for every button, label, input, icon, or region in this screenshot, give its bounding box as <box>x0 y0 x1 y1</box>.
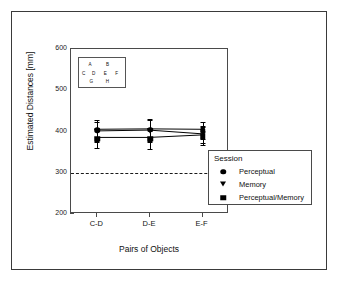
y-tick-label-300: 300 <box>55 168 67 176</box>
x-tick-mark-C-D <box>96 213 97 217</box>
inset-object-B: B <box>106 61 109 66</box>
x-tick-mark-D-E <box>149 213 150 217</box>
error-cap-memory-C-D-upper <box>95 122 100 123</box>
legend-marker-circle-icon <box>220 169 226 175</box>
error-cap-memory-D-E-upper <box>148 120 153 121</box>
figure-canvas: Estimated Distances [mm] 200300400500600… <box>0 0 340 284</box>
y-axis-tick-labels: 200300400500600 <box>44 48 67 213</box>
x-axis-tick-marks <box>70 213 228 218</box>
legend-marker-triangle-down-icon <box>220 182 226 187</box>
y-tick-label-200: 200 <box>55 209 67 217</box>
y-tick-label-500: 500 <box>55 85 67 93</box>
legend-label-memory: Memory <box>239 179 266 190</box>
legend-entry-perceptual[interactable]: Perceptual <box>214 166 310 177</box>
x-axis-title: Pairs of Objects <box>70 244 228 254</box>
x-tick-mark-E-F <box>202 213 203 217</box>
inset-object-D: D <box>92 70 95 75</box>
data-point-perceptual-memory-D-E <box>147 136 153 142</box>
x-tick-label-C-D: C-D <box>90 219 103 228</box>
error-cap-perceptual-memory-E-F-upper <box>200 127 205 128</box>
y-tick-label-400: 400 <box>55 127 67 135</box>
error-cap-perceptual-E-F-upper <box>200 122 205 123</box>
legend-label-perceptual: Perceptual <box>239 166 275 177</box>
data-point-perceptual-memory-C-D <box>95 136 101 142</box>
x-tick-label-E-F: E-F <box>196 219 208 228</box>
error-cap-perceptual-memory-D-E-upper <box>148 128 153 129</box>
inset-object-F: F <box>115 70 118 75</box>
x-axis-tick-labels: C-DD-EE-F <box>70 219 228 231</box>
y-tick-label-600: 600 <box>55 44 67 52</box>
legend-entry-memory[interactable]: Memory <box>214 179 310 190</box>
y-axis-title: Estimated Distances [mm] <box>25 26 35 176</box>
legend-entry-perceptual-memory[interactable]: Perceptual/Memory <box>214 192 310 203</box>
inset-object-A: A <box>88 61 91 66</box>
inset-object-G: G <box>90 78 94 83</box>
legend-label-perceptual-memory: Perceptual/Memory <box>239 192 304 203</box>
inset-object-H: H <box>106 78 109 83</box>
legend-title: Session <box>214 154 242 163</box>
data-point-perceptual-memory-E-F <box>200 133 206 139</box>
error-cap-perceptual-memory-D-E-lower <box>148 149 153 150</box>
inset-object-layout-diagram: ABCDEFGH <box>78 57 126 88</box>
error-cap-perceptual-memory-C-D-lower <box>95 148 100 149</box>
legend-marker-square-icon <box>220 195 226 201</box>
legend-box: Session PerceptualMemoryPerceptual/Memor… <box>208 150 312 205</box>
inset-object-E: E <box>104 70 107 75</box>
error-cap-perceptual-memory-E-F-lower <box>200 145 205 146</box>
inset-object-C: C <box>82 70 85 75</box>
x-tick-label-D-E: D-E <box>143 219 156 228</box>
error-cap-perceptual-memory-C-D-upper <box>95 129 100 130</box>
